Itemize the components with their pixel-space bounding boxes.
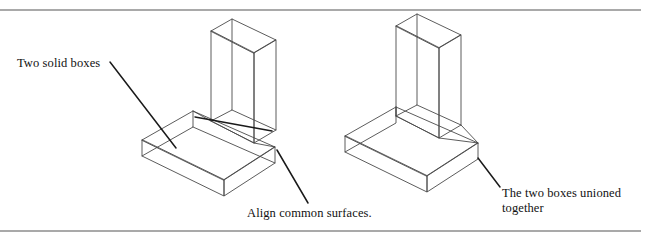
right-base-slab — [345, 107, 478, 192]
left-slab-front-left-face — [142, 140, 224, 196]
right-upright-slab — [396, 14, 461, 138]
leader-align-common-surfaces — [277, 150, 308, 203]
label-two-boxes-unioned: The two boxes unioned together — [502, 186, 621, 215]
right-slab-hidden-back-edges — [345, 107, 396, 152]
right-upright-right-face — [439, 35, 461, 138]
left-overlap-edge-b — [254, 143, 275, 147]
left-upright-hidden-back-edges — [211, 19, 232, 121]
right-upright-hidden-back-edges — [396, 14, 417, 116]
left-slab-top-face — [142, 111, 275, 180]
diagram-canvas: Two solid boxes Align common surfaces. T… — [0, 0, 650, 241]
right-slab-front-left-face — [345, 136, 427, 192]
left-horizontal-slab — [142, 111, 275, 196]
unioned-boxes-figure — [345, 14, 500, 192]
label-align-common-surfaces: Align common surfaces. — [247, 206, 372, 221]
leader-two-boxes-unioned — [478, 158, 500, 187]
left-slab-front-right-face — [224, 147, 275, 196]
left-upright-right-face — [254, 40, 276, 143]
left-slab-hidden-back-edges — [142, 111, 193, 156]
left-vertical-slab — [211, 19, 276, 143]
label-two-solid-boxes: Two solid boxes — [17, 56, 100, 71]
right-slab-front-right-face — [427, 143, 478, 192]
right-slab-top-face — [345, 107, 478, 176]
two-solid-boxes-figure — [110, 19, 308, 203]
right-upright-left-face — [396, 26, 439, 138]
leader-two-solid-boxes-to-base — [110, 62, 176, 148]
right-junction-edge-d — [396, 116, 439, 138]
right-junction-edge-c — [461, 125, 478, 143]
